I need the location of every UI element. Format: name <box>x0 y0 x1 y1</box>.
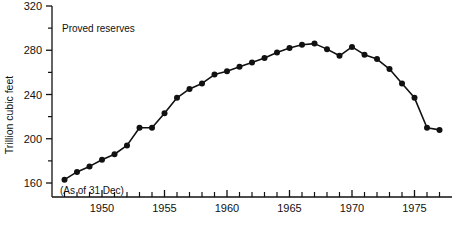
x-tick-label: 1975 <box>402 202 426 214</box>
data-point <box>424 125 430 131</box>
data-point <box>374 56 380 62</box>
data-point <box>412 95 418 101</box>
data-point <box>287 45 293 51</box>
line-chart: Trillion cubic feet 160200240280320 1950… <box>0 0 470 227</box>
data-point <box>174 95 180 101</box>
data-point <box>187 86 193 92</box>
y-tick-label: 160 <box>24 177 42 189</box>
data-point <box>99 157 105 163</box>
data-point <box>162 110 168 116</box>
data-point <box>324 46 330 52</box>
data-point <box>249 59 255 65</box>
data-point <box>312 41 318 47</box>
data-point <box>212 72 218 78</box>
x-tick-label: 1960 <box>215 202 239 214</box>
data-point <box>437 127 443 133</box>
y-tick-label: 240 <box>24 89 42 101</box>
y-axis-tick-labels: 160200240280320 <box>24 0 42 189</box>
x-tick-label: 1955 <box>152 202 176 214</box>
data-point <box>137 125 143 131</box>
y-axis-title: Trillion cubic feet <box>3 76 15 154</box>
data-point <box>399 80 405 86</box>
y-tick-label: 280 <box>24 44 42 56</box>
data-point <box>62 177 68 183</box>
data-point <box>87 163 93 169</box>
x-axis-tick-labels: 195019551960196519701975 <box>90 202 427 214</box>
chart-container: Trillion cubic feet 160200240280320 1950… <box>0 0 470 227</box>
y-axis-ticks <box>46 6 52 183</box>
data-point <box>299 42 305 48</box>
data-point <box>237 64 243 70</box>
y-tick-label: 320 <box>24 0 42 12</box>
x-tick-label: 1950 <box>90 202 114 214</box>
data-point <box>274 49 280 55</box>
data-point <box>349 44 355 50</box>
data-point <box>149 125 155 131</box>
annotation-as-of-date: (As of 31 Dec) <box>60 185 124 196</box>
data-point <box>387 66 393 72</box>
x-tick-label: 1970 <box>340 202 364 214</box>
data-point <box>74 169 80 175</box>
data-point <box>112 151 118 157</box>
data-point <box>262 55 268 61</box>
data-point <box>224 68 230 74</box>
y-tick-label: 200 <box>24 133 42 145</box>
data-point <box>199 80 205 86</box>
data-point <box>124 142 130 148</box>
data-point <box>362 52 368 58</box>
annotation-proved-reserves: Proved reserves <box>62 23 135 34</box>
x-tick-label: 1965 <box>277 202 301 214</box>
series-markers <box>62 41 443 183</box>
data-point <box>337 53 343 59</box>
